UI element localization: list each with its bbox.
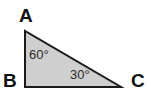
vertex-label-b: B [3, 71, 17, 90]
angle-label-at-a: 60° [29, 48, 49, 61]
angle-label-at-c: 30° [70, 68, 90, 81]
geometry-figure: A B C 60° 30° [0, 0, 151, 104]
vertex-label-c: C [131, 71, 145, 90]
vertex-label-a: A [19, 6, 33, 25]
